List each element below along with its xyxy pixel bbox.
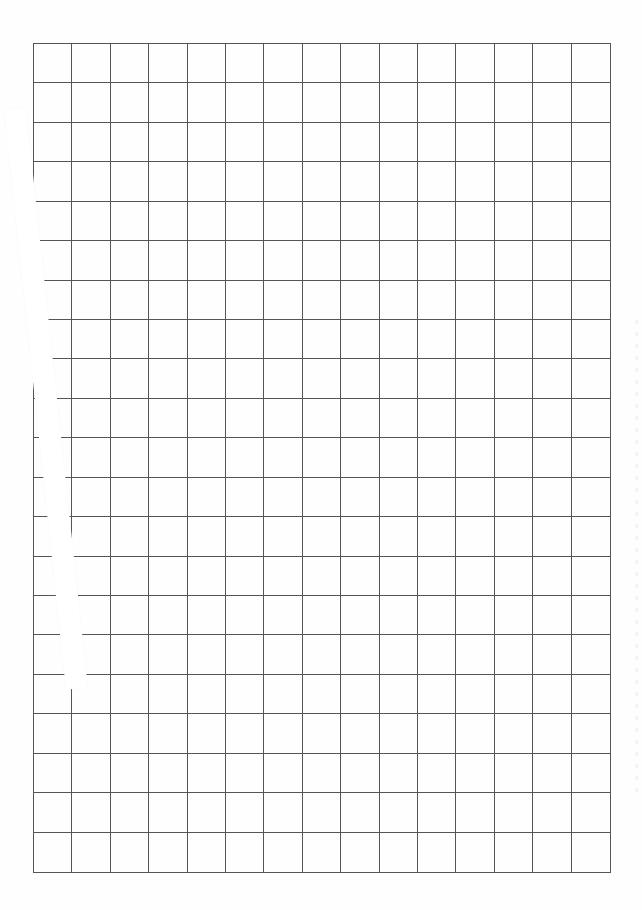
grid-cell (418, 83, 456, 122)
grid-cell (34, 83, 72, 122)
grid-cell (495, 478, 533, 517)
grid-cell (188, 123, 226, 162)
grid-cell (380, 359, 418, 398)
grid-cell (533, 281, 571, 320)
grid-cell (495, 281, 533, 320)
grid-cell (303, 399, 341, 438)
grid-cell (533, 596, 571, 635)
grid-cell (418, 596, 456, 635)
grid-cell (341, 517, 379, 556)
grid-cell (341, 320, 379, 359)
grid-cell (72, 281, 110, 320)
grid-cell (34, 44, 72, 83)
grid-cell (149, 123, 187, 162)
grid-cell (341, 754, 379, 793)
grid-cell (572, 478, 610, 517)
grid-cell (380, 438, 418, 477)
grid-cell (495, 320, 533, 359)
grid-cell (264, 320, 302, 359)
grid-cell (72, 793, 110, 832)
grid-cell (188, 202, 226, 241)
grid-cell (72, 517, 110, 556)
grid-cell (341, 793, 379, 832)
grid-cell (264, 478, 302, 517)
grid-cell (226, 83, 264, 122)
grid-cell (264, 83, 302, 122)
grid-cell (34, 123, 72, 162)
grid-cell (418, 635, 456, 674)
grid-cell (533, 123, 571, 162)
grid-cell (111, 714, 149, 753)
grid-cell (264, 399, 302, 438)
grid-cell (533, 399, 571, 438)
grid-cell (72, 438, 110, 477)
grid-cell (226, 635, 264, 674)
grid-cell (533, 714, 571, 753)
grid-cell (188, 44, 226, 83)
grid-cell (456, 399, 494, 438)
grid-cell (533, 320, 571, 359)
grid-cell (456, 44, 494, 83)
grid-cell (495, 714, 533, 753)
grid-cell (34, 793, 72, 832)
grid-cell (264, 557, 302, 596)
grid-cell (495, 83, 533, 122)
grid-cell (456, 478, 494, 517)
grid-cell (418, 202, 456, 241)
grid-cell (418, 359, 456, 398)
grid-cell (572, 438, 610, 477)
grid-cell (226, 517, 264, 556)
grid-cell (34, 833, 72, 872)
grid-cell (572, 675, 610, 714)
grid-cell (495, 162, 533, 201)
grid-cell (111, 557, 149, 596)
grid-cell (380, 241, 418, 280)
grid-cell (303, 162, 341, 201)
grid-cell (188, 359, 226, 398)
grid-cell (380, 44, 418, 83)
grid-cell (533, 44, 571, 83)
grid-cell (495, 754, 533, 793)
grid-cell (111, 202, 149, 241)
grid-cell (456, 517, 494, 556)
grid-cell (418, 675, 456, 714)
grid-cell (188, 478, 226, 517)
grid-cell (72, 123, 110, 162)
grid-cell (380, 478, 418, 517)
grid-cell (456, 281, 494, 320)
grid-cell (111, 793, 149, 832)
grid-cell (264, 281, 302, 320)
grid-cell (72, 241, 110, 280)
grid-cell (380, 675, 418, 714)
grid-cell (533, 359, 571, 398)
grid-cell (264, 714, 302, 753)
grid-cell (341, 557, 379, 596)
grid-cell (149, 557, 187, 596)
grid-cell (226, 833, 264, 872)
grid-cell (264, 202, 302, 241)
grid-cell (188, 557, 226, 596)
grid-cell (111, 83, 149, 122)
grid-cell (149, 438, 187, 477)
grid-cell (149, 44, 187, 83)
grid-cell (111, 596, 149, 635)
grid-cell (341, 123, 379, 162)
grid-cell (188, 714, 226, 753)
grid-cell (572, 754, 610, 793)
grid-cell (418, 557, 456, 596)
grid-cell (264, 438, 302, 477)
grid-cell (380, 596, 418, 635)
grid-cell (264, 517, 302, 556)
grid-cell (226, 320, 264, 359)
grid-cell (226, 438, 264, 477)
grid-cell (572, 714, 610, 753)
grid-cell (149, 320, 187, 359)
grid-cell (149, 359, 187, 398)
grid-cell (572, 83, 610, 122)
grid-cell (380, 557, 418, 596)
grid-cell (149, 241, 187, 280)
grid-cell (533, 675, 571, 714)
grid-cell (380, 320, 418, 359)
grid-cell (456, 714, 494, 753)
grid-cell (495, 635, 533, 674)
